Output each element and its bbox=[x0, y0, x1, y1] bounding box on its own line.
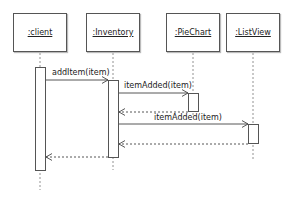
object-listview-label: :ListView bbox=[235, 28, 271, 37]
object-piechart-label: :PieChart bbox=[175, 28, 211, 37]
object-inventory: :Inventory bbox=[86, 13, 140, 52]
object-client: :client bbox=[13, 13, 67, 52]
activation-client bbox=[36, 68, 46, 171]
message-label-itemAdded-listview: itemAdded(item) bbox=[154, 113, 222, 122]
message-label-addItem: addItem(item) bbox=[52, 68, 110, 77]
message-label-itemAdded-piechart: itemAdded(item) bbox=[124, 81, 192, 90]
activation-inventory bbox=[109, 81, 119, 158]
activation-listview bbox=[249, 125, 259, 144]
object-listview: :ListView bbox=[226, 13, 280, 52]
activation-piechart bbox=[189, 94, 199, 112]
object-client-label: :client bbox=[28, 28, 53, 37]
object-inventory-label: :Inventory bbox=[93, 28, 134, 37]
object-piechart: :PieChart bbox=[166, 13, 220, 52]
